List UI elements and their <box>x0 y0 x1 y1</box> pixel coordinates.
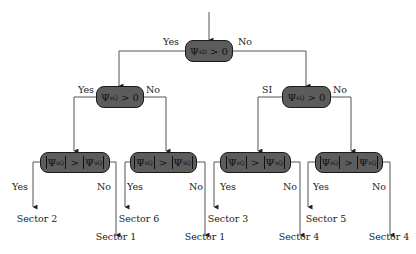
node4-no-label: No <box>372 182 386 192</box>
node-symbol: Ψ <box>101 92 110 103</box>
sector-outcome: Sector 4 <box>279 232 320 242</box>
node-condition: > 0 <box>210 46 228 57</box>
level3-node-1: ΨsQ > Ψ'sQ <box>40 152 110 173</box>
sector-outcome: Sector 4 <box>369 232 410 242</box>
lhs-symbol: Ψ <box>228 157 237 168</box>
sector-outcome: Sector 1 <box>185 232 226 242</box>
sector-outcome: Sector 3 <box>208 214 249 224</box>
sector-outcome: Sector 6 <box>119 214 160 224</box>
level2-left-no-label: No <box>146 85 160 95</box>
level2-right-yes-label: SI <box>262 85 272 95</box>
node-subscript: sQ <box>110 94 118 101</box>
lhs-symbol: Ψ <box>136 157 145 168</box>
node-subscript: sQ <box>296 94 304 101</box>
root-yes-label: Yes <box>163 37 179 47</box>
level2-left-yes-label: Yes <box>78 85 94 95</box>
rhs-subscript: sQ <box>183 159 191 166</box>
comparison-operator: > <box>159 157 167 168</box>
level3-node-2: ΨsQ > Ψ'sQ <box>130 152 197 173</box>
node-subscript: sD <box>199 48 207 55</box>
lhs-subscript: sQ <box>237 159 245 166</box>
sector-outcome: Sector 5 <box>306 214 347 224</box>
level3-node-3: ΨsQ > Ψ'sQ <box>220 152 291 173</box>
node3-yes-label: Yes <box>220 182 236 192</box>
node2-yes-label: Yes <box>127 182 143 192</box>
node-symbol: Ψ <box>288 92 297 103</box>
sector-outcome: Sector 2 <box>17 214 58 224</box>
lhs-symbol: Ψ <box>322 157 331 168</box>
root-decision-node: ΨsD > 0 <box>185 40 233 62</box>
rhs-subscript: sQ <box>94 159 102 166</box>
level2-right-no-label: No <box>333 85 347 95</box>
lhs-subscript: sQ <box>56 159 64 166</box>
node-condition: > 0 <box>308 92 326 103</box>
level2-left-decision-node: ΨsQ > 0 <box>96 86 144 108</box>
node2-no-label: No <box>189 182 203 192</box>
node-condition: > 0 <box>121 92 139 103</box>
comparison-operator: > <box>251 157 259 168</box>
sector-outcome: Sector 1 <box>96 232 137 242</box>
node1-yes-label: Yes <box>12 182 28 192</box>
node-symbol: Ψ <box>190 46 199 57</box>
level2-right-decision-node: ΨsQ > 0 <box>282 86 331 108</box>
rhs-subscript: sQ <box>275 159 283 166</box>
comparison-operator: > <box>344 157 352 168</box>
lhs-symbol: Ψ <box>48 157 57 168</box>
node3-no-label: No <box>283 182 297 192</box>
lhs-subscript: sQ <box>145 159 153 166</box>
rhs-subscript: sQ <box>368 159 376 166</box>
comparison-operator: > <box>70 157 78 168</box>
node4-yes-label: Yes <box>313 182 329 192</box>
decision-tree-diagram: ΨsD > 0 Yes No ΨsQ > 0 Yes No ΨsQ > 0 SI… <box>0 0 416 254</box>
root-no-label: No <box>238 37 252 47</box>
level3-node-4: ΨsQ > Ψ'sQ <box>315 152 383 173</box>
lhs-subscript: sQ <box>330 159 338 166</box>
node1-no-label: No <box>97 182 111 192</box>
